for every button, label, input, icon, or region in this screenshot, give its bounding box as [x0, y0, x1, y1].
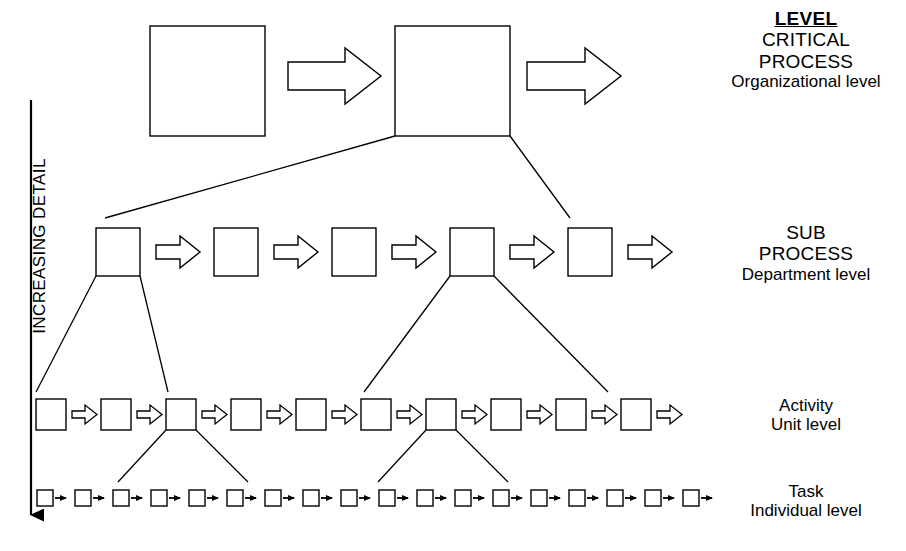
- activity-arrow: [332, 405, 357, 424]
- activity-arrow: [267, 405, 292, 424]
- task-box[interactable]: [37, 490, 53, 506]
- activity-arrow: [462, 405, 487, 424]
- activity-box[interactable]: [101, 399, 131, 430]
- sub-process-box[interactable]: [214, 228, 258, 276]
- sub-process-arrow: [392, 236, 436, 268]
- task-box[interactable]: [151, 490, 167, 506]
- activity-box[interactable]: [556, 399, 586, 430]
- task-box[interactable]: [607, 490, 623, 506]
- activity-arrow: [592, 405, 617, 424]
- level-legend-activity: Activity Unit level: [706, 396, 906, 434]
- task-box[interactable]: [493, 490, 509, 506]
- critical-process-arrow-large: [288, 48, 381, 104]
- decomposition-lines-sub-to-activity: [36, 276, 608, 392]
- critical-process-box[interactable]: [395, 26, 510, 136]
- activity-arrow: [397, 405, 422, 424]
- task-box[interactable]: [341, 490, 357, 506]
- task-box[interactable]: [303, 490, 319, 506]
- activity-box[interactable]: [231, 399, 261, 430]
- activity-box[interactable]: [166, 399, 196, 430]
- sub-process-arrow: [156, 236, 200, 268]
- activity-box[interactable]: [36, 399, 66, 430]
- task-box[interactable]: [227, 490, 243, 506]
- critical-process-label-line1: CRITICAL: [706, 29, 906, 50]
- sub-process-arrow: [628, 236, 672, 268]
- activity-arrow: [72, 405, 97, 424]
- sub-process-row: [96, 228, 672, 276]
- sub-process-box[interactable]: [568, 228, 612, 276]
- activity-box[interactable]: [296, 399, 326, 430]
- sub-process-scope: Department level: [706, 265, 906, 284]
- critical-process-label-line2: PROCESS: [706, 51, 906, 72]
- task-box[interactable]: [531, 490, 547, 506]
- critical-process-box[interactable]: [150, 26, 265, 136]
- sub-process-box[interactable]: [332, 228, 376, 276]
- sub-process-label-line1: SUB: [706, 222, 906, 243]
- decomposition-lines-critical-to-sub: [105, 136, 570, 218]
- sub-process-box[interactable]: [96, 228, 140, 276]
- task-box[interactable]: [417, 490, 433, 506]
- task-box[interactable]: [75, 490, 91, 506]
- task-box[interactable]: [265, 490, 281, 506]
- activity-arrow: [137, 405, 162, 424]
- level-legend-critical-process: LEVEL CRITICAL PROCESS Organizational le…: [706, 8, 906, 92]
- sub-process-arrow: [274, 236, 318, 268]
- activity-arrow: [527, 405, 552, 424]
- activity-arrow: [657, 405, 682, 424]
- task-box[interactable]: [683, 490, 699, 506]
- task-label-line1: Task: [706, 482, 906, 501]
- sub-process-arrow: [510, 236, 554, 268]
- task-box[interactable]: [189, 490, 205, 506]
- activity-scope: Unit level: [706, 415, 906, 434]
- activity-box[interactable]: [361, 399, 391, 430]
- task-row: [37, 490, 712, 506]
- sub-process-box[interactable]: [450, 228, 494, 276]
- task-box[interactable]: [379, 490, 395, 506]
- level-legend-task: Task Individual level: [706, 482, 906, 520]
- critical-process-scope: Organizational level: [706, 72, 906, 91]
- activity-arrow: [202, 405, 227, 424]
- activity-box[interactable]: [621, 399, 651, 430]
- task-box[interactable]: [569, 490, 585, 506]
- sub-process-label-line2: PROCESS: [706, 243, 906, 264]
- decomposition-lines-activity-to-task: [118, 430, 508, 482]
- task-box[interactable]: [455, 490, 471, 506]
- activity-box[interactable]: [491, 399, 521, 430]
- activity-box[interactable]: [426, 399, 456, 430]
- level-legend-sub-process: SUB PROCESS Department level: [706, 222, 906, 284]
- activity-label-line1: Activity: [706, 396, 906, 415]
- critical-process-row: [150, 26, 621, 136]
- axis-label-increasing-detail: INCREASING DETAIL: [30, 136, 50, 356]
- process-hierarchy-diagram: INCREASING DETAIL LEVEL CRITICAL PROCESS…: [0, 0, 906, 551]
- legend-heading: LEVEL: [706, 8, 906, 29]
- task-box[interactable]: [113, 490, 129, 506]
- activity-row: [36, 399, 682, 430]
- task-box[interactable]: [645, 490, 661, 506]
- critical-process-arrow-large: [527, 48, 621, 104]
- task-scope: Individual level: [706, 501, 906, 520]
